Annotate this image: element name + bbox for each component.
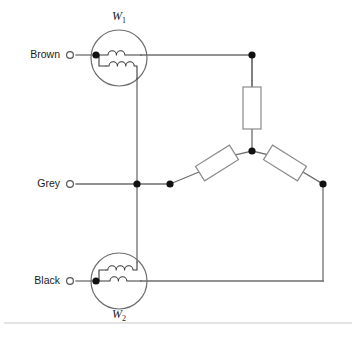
winding-w1-interlink [99,55,106,66]
terminal-group: Brown Grey Black [30,48,73,286]
junction-node-top-right [248,51,255,58]
resistor-right [264,145,307,181]
resistor-group [196,87,307,181]
winding-w2-coil-upper [106,262,137,270]
junction-node-black-coil [92,277,99,284]
winding-w2-interlink [99,270,106,281]
junction-node-grey-branch [166,180,173,187]
junction-node-brown-coil [92,51,99,58]
junction-node-star-center [248,147,255,154]
terminal-label-black: Black [34,274,60,286]
terminal-ring-brown[interactable] [67,52,74,59]
winding-w1-coil-lower [106,62,137,79]
terminal-ring-grey[interactable] [67,181,74,188]
terminal-label-brown: Brown [30,48,60,60]
junction-node-grey-main [133,180,140,187]
junction-node-right [319,180,326,187]
wire-rleft-to-grey [170,172,199,184]
resistor-top [243,87,261,129]
winding-w2-coil-lower [96,277,141,281]
winding-w1-coil-upper [96,51,141,55]
circuit-diagram-root: W1 W2 Brown Grey Black [0,0,356,337]
winding-w2-label: W2 [112,307,126,323]
winding-w1: W1 [91,9,147,86]
winding-w2: W2 [91,253,147,323]
circuit-diagram-canvas: W1 W2 Brown Grey Black [0,0,356,337]
terminal-ring-black[interactable] [67,278,74,285]
terminal-label-grey: Grey [37,177,61,189]
winding-w1-label: W1 [112,9,126,25]
resistor-left [196,145,239,181]
